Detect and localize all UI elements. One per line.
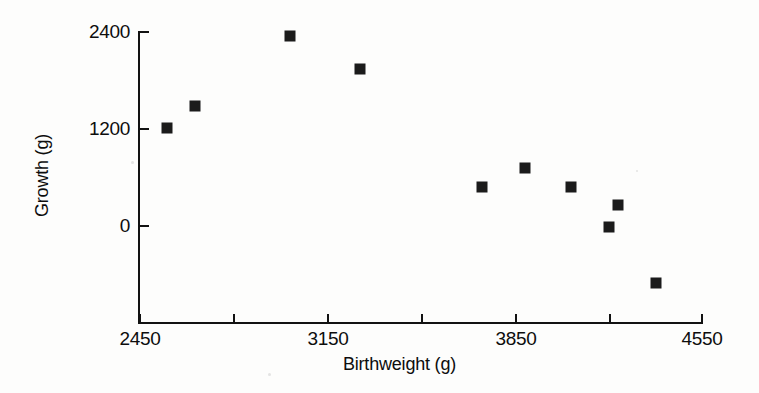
x-tick-2450 bbox=[139, 314, 141, 323]
data-point bbox=[650, 278, 661, 289]
y-tick-label-2400: 2400 bbox=[20, 21, 130, 43]
data-point bbox=[566, 182, 577, 193]
data-point bbox=[189, 101, 200, 112]
x-tick-3150 bbox=[327, 314, 329, 323]
x-tick-4550 bbox=[701, 314, 703, 323]
y-tick-2400 bbox=[140, 31, 149, 33]
data-point bbox=[613, 200, 624, 211]
data-point bbox=[476, 182, 487, 193]
scan-speckle bbox=[268, 373, 271, 376]
data-point bbox=[519, 162, 530, 173]
scan-speckle bbox=[131, 161, 134, 164]
scatter-plot-figure: 2400 1200 0 2450 3150 3850 4550 Birthwei… bbox=[0, 0, 759, 393]
data-point bbox=[284, 30, 295, 41]
scan-speckle bbox=[636, 170, 638, 172]
y-axis-line bbox=[138, 31, 140, 324]
y-tick-1200 bbox=[140, 128, 149, 130]
x-tick-label-3150: 3150 bbox=[307, 328, 348, 350]
y-axis-title: Growth (g) bbox=[32, 96, 53, 256]
x-tick-2800 bbox=[233, 314, 235, 323]
x-tick-label-4550: 4550 bbox=[681, 328, 722, 350]
data-point bbox=[603, 222, 614, 233]
x-axis-title: Birthweight (g) bbox=[0, 354, 759, 375]
data-point bbox=[355, 63, 366, 74]
x-tick-3850 bbox=[515, 314, 517, 323]
x-tick-label-2450: 2450 bbox=[119, 328, 160, 350]
x-tick-label-3850: 3850 bbox=[495, 328, 536, 350]
x-tick-4200 bbox=[609, 314, 611, 323]
y-tick-0 bbox=[140, 225, 149, 227]
x-tick-3500 bbox=[421, 314, 423, 323]
data-point bbox=[161, 123, 172, 134]
